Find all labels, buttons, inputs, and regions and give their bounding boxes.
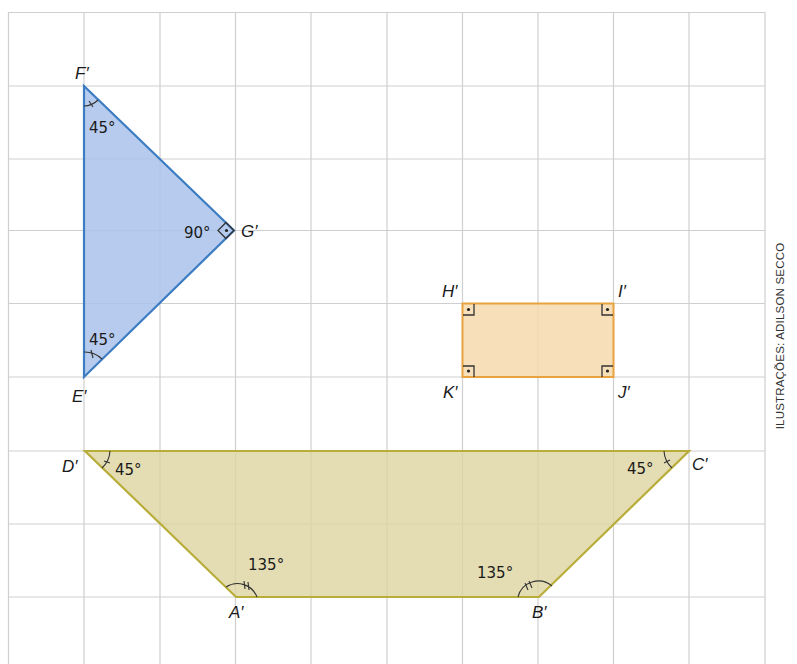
trapezoid-abcd: D′ C′ A′ B′ 45° 45° 135° 135° (62, 451, 708, 622)
angle-label-d: 45° (115, 461, 142, 479)
vertex-label-c: C′ (692, 455, 708, 474)
vertex-label-j: J′ (617, 383, 631, 402)
rectangle-hijk: H′ I′ J′ K′ (442, 282, 631, 402)
triangle-efg: F′ G′ E′ 45° 90° 45° (72, 64, 258, 406)
vertex-label-h: H′ (442, 282, 458, 301)
vertex-label-b: B′ (532, 603, 547, 622)
vertex-label-i: I′ (618, 282, 627, 301)
vertex-label-d: D′ (62, 457, 78, 476)
angle-label-a: 135° (248, 556, 284, 574)
credit-text: ILUSTRAÇÕES: ADILSON SECCO (774, 243, 786, 430)
geometry-figure: F′ G′ E′ 45° 90° 45° H′ I′ J′ K′ (0, 0, 797, 664)
angle-label-g: 90° (184, 224, 211, 242)
angle-label-e: 45° (89, 331, 116, 349)
vertex-label-e: E′ (72, 387, 87, 406)
vertex-label-a: A′ (228, 603, 244, 622)
vertex-label-f: F′ (75, 64, 89, 83)
angle-label-b: 135° (477, 564, 513, 582)
angle-label-c: 45° (627, 460, 654, 478)
vertex-label-g: G′ (241, 222, 258, 241)
angle-label-f: 45° (89, 119, 116, 137)
vertex-label-k: K′ (443, 383, 458, 402)
